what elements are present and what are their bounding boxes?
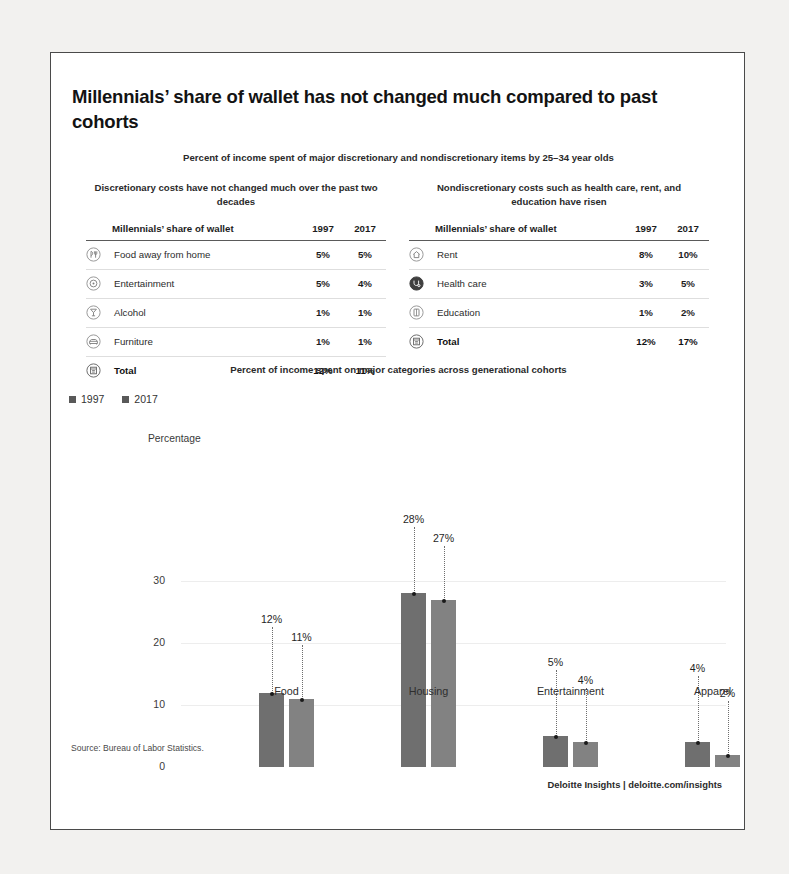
brand-footer: Deloitte Insights | deloitte.com/insight… [547, 779, 722, 790]
page-title: Millennials’ share of wallet has not cha… [72, 85, 692, 135]
x-axis-label-food: Food [227, 685, 347, 697]
bar-housing-2017 [431, 600, 456, 767]
table-row: Education 1% 2% [409, 298, 709, 327]
row-value-2017: 10% [667, 240, 709, 269]
column-header-2017: 2017 [344, 223, 386, 241]
y-axis-tick: 10 [129, 698, 165, 710]
furniture-icon [86, 327, 112, 356]
row-label: Total [435, 327, 625, 356]
legend-label: 2017 [134, 393, 157, 405]
row-value-1997: 5% [302, 269, 344, 298]
bar-housing-1997 [401, 593, 426, 767]
bar-apparel-1997 [685, 742, 710, 767]
y-axis-tick: 20 [129, 636, 165, 648]
table-row-total: Total 12% 17% [409, 327, 709, 356]
row-label: Education [435, 298, 625, 327]
row-value-1997: 1% [302, 298, 344, 327]
bar-value-label: 12% [252, 613, 292, 625]
alcohol-icon [86, 298, 112, 327]
health-care-icon [409, 269, 435, 298]
row-label: Furniture [112, 327, 302, 356]
table-header-row: Millennials’ share of wallet 1997 2017 [409, 223, 709, 241]
main-subtitle: Percent of income spent of major discret… [51, 152, 746, 163]
row-value-2017: 17% [667, 327, 709, 356]
food-icon [86, 240, 112, 269]
value-leader-line [444, 546, 446, 600]
value-marker-dot [696, 741, 700, 745]
icon-column-header [409, 223, 435, 241]
chart-legend: 1997 2017 [69, 393, 158, 405]
infographic-card: Millennials’ share of wallet has not cha… [50, 52, 745, 830]
value-leader-line [414, 527, 416, 593]
column-header-2017: 2017 [667, 223, 709, 241]
education-icon [409, 298, 435, 327]
row-value-2017: 1% [344, 298, 386, 327]
bar-food-1997 [259, 693, 284, 767]
table-row: Rent 8% 10% [409, 240, 709, 269]
table-row: Alcohol 1% 1% [86, 298, 386, 327]
row-value-1997: 3% [625, 269, 667, 298]
row-value-1997: 8% [625, 240, 667, 269]
gridline [181, 581, 726, 582]
column-header-label: Millennials’ share of wallet [435, 223, 625, 241]
table-row: Health care 3% 5% [409, 269, 709, 298]
row-label: Food away from home [112, 240, 302, 269]
row-value-1997: 5% [302, 240, 344, 269]
bar-entertainment-1997 [543, 736, 568, 767]
chart-subtitle: Percent of income spent on major categor… [51, 364, 746, 375]
value-marker-dot [554, 735, 558, 739]
table-row: Food away from home 5% 5% [86, 240, 386, 269]
x-axis-label-apparel: Apparel [653, 685, 773, 697]
row-value-1997: 1% [625, 298, 667, 327]
row-value-2017: 4% [344, 269, 386, 298]
bar-value-label: 5% [536, 656, 576, 668]
entertainment-icon [86, 269, 112, 298]
row-label: Entertainment [112, 269, 302, 298]
y-axis-tick: 0 [129, 760, 165, 772]
nondiscretionary-table: Millennials’ share of wallet 1997 2017 R… [409, 223, 709, 356]
home-icon [409, 240, 435, 269]
legend-item-1997: 1997 [69, 393, 104, 405]
row-value-2017: 5% [344, 240, 386, 269]
x-axis-label-entertainment: Entertainment [511, 685, 631, 697]
bar-entertainment-2017 [573, 742, 598, 767]
y-axis-tick: 30 [129, 574, 165, 586]
value-marker-dot [412, 592, 416, 596]
legend-swatch-icon [122, 396, 129, 403]
nondiscretionary-table-block: Nondiscretionary costs such as health ca… [409, 181, 709, 356]
legend-item-2017: 2017 [122, 393, 157, 405]
row-label: Rent [435, 240, 625, 269]
discretionary-table-heading: Discretionary costs have not changed muc… [86, 181, 386, 209]
row-label: Alcohol [112, 298, 302, 327]
bar-value-label: 11% [282, 631, 322, 643]
bar-food-2017 [289, 699, 314, 767]
bar-value-label: 28% [394, 513, 434, 525]
row-value-1997: 12% [625, 327, 667, 356]
source-note: Source: Bureau of Labor Statistics. [71, 743, 204, 753]
value-leader-line [728, 701, 730, 755]
y-axis-title: Percentage [148, 433, 201, 444]
column-header-label: Millennials’ share of wallet [112, 223, 302, 241]
value-leader-line [272, 627, 274, 693]
table-row: Entertainment 5% 4% [86, 269, 386, 298]
value-marker-dot [442, 599, 446, 603]
table-header-row: Millennials’ share of wallet 1997 2017 [86, 223, 386, 241]
value-marker-dot [726, 754, 730, 758]
table-row: Furniture 1% 1% [86, 327, 386, 356]
value-leader-line [556, 670, 558, 736]
row-value-2017: 5% [667, 269, 709, 298]
value-marker-dot [300, 698, 304, 702]
bar-chart: Percentage 010203012%11%Food28%27%Housin… [51, 423, 746, 713]
value-marker-dot [584, 741, 588, 745]
legend-label: 1997 [81, 393, 104, 405]
nondiscretionary-table-heading: Nondiscretionary costs such as health ca… [409, 181, 709, 209]
bar-value-label: 27% [424, 532, 464, 544]
column-header-1997: 1997 [302, 223, 344, 241]
x-axis-label-housing: Housing [369, 685, 489, 697]
bar-value-label: 4% [678, 662, 718, 674]
row-value-2017: 1% [344, 327, 386, 356]
total-icon [409, 327, 435, 356]
discretionary-table: Millennials’ share of wallet 1997 2017 F… [86, 223, 386, 385]
icon-column-header [86, 223, 112, 241]
discretionary-table-block: Discretionary costs have not changed muc… [86, 181, 386, 385]
